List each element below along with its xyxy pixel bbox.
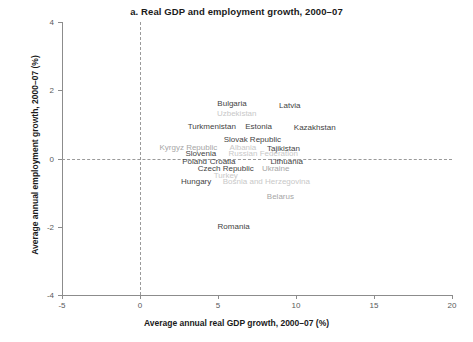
y-axis-tick-label: -2 (38, 222, 54, 231)
data-point-label: Hungary (181, 177, 211, 186)
x-axis-tick-label: -5 (58, 301, 65, 310)
chart-title: a. Real GDP and employment growth, 2000–… (0, 6, 473, 17)
x-axis-tick-label: 5 (216, 301, 220, 310)
data-point-label: Latvia (279, 100, 300, 109)
y-axis-tick-label: 2 (38, 86, 54, 95)
data-point-label: Romania (218, 222, 250, 231)
y-axis-tick (58, 295, 62, 296)
data-point-label: Estonia (245, 121, 272, 130)
x-axis-tick (218, 295, 219, 299)
x-axis-tick (452, 295, 453, 299)
x-axis-line (62, 295, 453, 296)
x-axis-tick-label: 15 (370, 301, 379, 310)
y-axis-tick-label: 0 (38, 154, 54, 163)
data-point-label: Ukraine (262, 164, 290, 173)
y-axis-tick-label: 4 (38, 18, 54, 27)
data-point-label: Turkmenistan (188, 121, 236, 130)
data-point-label: Belarus (267, 191, 294, 200)
zero-line-horizontal (62, 159, 452, 160)
x-axis-tick (140, 295, 141, 299)
x-axis-tick-label: 0 (138, 301, 142, 310)
y-axis-tick-label: -4 (38, 291, 54, 300)
data-point-label: Uzbekistan (217, 109, 257, 118)
data-point-label: Bosnia and Herzegovina (223, 177, 310, 186)
plot-area: BulgariaLatviaUzbekistanTurkmenistanEsto… (62, 22, 452, 295)
y-axis-tick (58, 22, 62, 23)
y-axis-tick (58, 227, 62, 228)
x-axis-tick (296, 295, 297, 299)
chart-figure: a. Real GDP and employment growth, 2000–… (0, 0, 473, 342)
x-axis-tick-label: 20 (448, 301, 457, 310)
x-axis-tick (374, 295, 375, 299)
y-axis-tick (58, 90, 62, 91)
x-axis-tick-label: 10 (292, 301, 301, 310)
x-axis-title: Average annual real GDP growth, 2000–07 … (0, 318, 473, 328)
x-axis-tick (62, 295, 63, 299)
data-point-label: Kazakhstan (294, 123, 336, 132)
data-point-label: Bulgaria (217, 99, 246, 108)
zero-line-vertical (140, 22, 141, 295)
y-axis-tick (58, 159, 62, 160)
